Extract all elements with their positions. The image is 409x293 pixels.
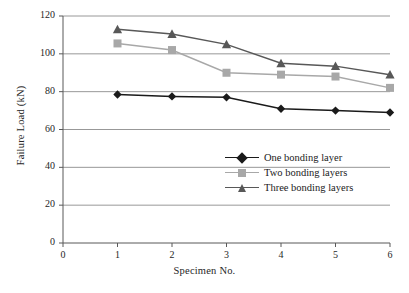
y-tick-label: 20 <box>21 198 55 209</box>
legend-label-one-bonding-layer: One bonding layer <box>259 152 342 163</box>
y-tick-label: 80 <box>21 85 55 96</box>
x-tick-label: 6 <box>378 249 402 260</box>
series-layer <box>113 25 395 117</box>
x-tick-label: 2 <box>160 249 184 260</box>
legend-item-one-bonding-layer: One bonding layer <box>225 150 353 165</box>
legend-key-two-bonding-layers <box>225 166 259 180</box>
legend-label-three-bonding-layers: Three bonding layers <box>259 182 353 193</box>
y-axis-title: Failure Load (kN) <box>15 66 26 186</box>
y-tick-label: 40 <box>21 160 55 171</box>
chart-legend: One bonding layer Two bonding layers Thr… <box>225 150 353 195</box>
x-tick-label: 1 <box>106 249 130 260</box>
legend-item-two-bonding-layers: Two bonding layers <box>225 165 353 180</box>
legend-key-one-bonding-layer <box>225 151 259 165</box>
x-tick-label: 5 <box>324 249 348 260</box>
y-tick-label: 0 <box>21 236 55 247</box>
x-tick-label: 4 <box>269 249 293 260</box>
y-tick-label: 60 <box>21 123 55 134</box>
y-tick-label: 120 <box>21 9 55 20</box>
legend-label-two-bonding-layers: Two bonding layers <box>259 167 347 178</box>
x-tick-label: 3 <box>215 249 239 260</box>
diamond-marker-icon <box>236 152 247 163</box>
x-tick-label: 0 <box>51 249 75 260</box>
tick-marks <box>59 16 390 247</box>
legend-key-three-bonding-layers <box>225 181 259 195</box>
triangle-marker-icon <box>238 184 246 192</box>
legend-item-three-bonding-layers: Three bonding layers <box>225 180 353 195</box>
x-axis-title: Specimen No. <box>0 265 409 276</box>
square-marker-icon <box>238 169 246 177</box>
failure-load-line-chart: 020406080100120 0123456 Failure Load (kN… <box>0 0 409 293</box>
y-tick-label: 100 <box>21 47 55 58</box>
